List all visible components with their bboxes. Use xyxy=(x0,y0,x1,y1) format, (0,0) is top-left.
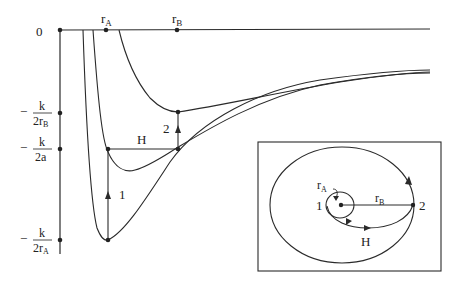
k-2rA-dot xyxy=(58,238,63,243)
zero-label: 0 xyxy=(36,24,43,39)
transition-2-label: 2 xyxy=(163,121,170,136)
rB-dot xyxy=(175,28,180,33)
potential-diagram: 0 rA rB − k 2rB − k 2a − k 2rA 1 H 2 xyxy=(0,0,456,284)
orbit-inset: rA rB 1 2 H xyxy=(258,142,441,271)
svg-text:k: k xyxy=(39,135,45,149)
point-2-dot xyxy=(411,203,415,207)
inset-point-1-label: 1 xyxy=(316,198,323,213)
k-2rB-dot xyxy=(58,111,63,116)
svg-text:2a: 2a xyxy=(35,150,47,164)
svg-text:−: − xyxy=(20,231,27,246)
zero-energy-line xyxy=(60,29,430,30)
rB-label: rB xyxy=(172,11,182,28)
inset-point-2-label: 2 xyxy=(419,198,426,213)
svg-text:−: − xyxy=(20,140,27,155)
potential-curve-B xyxy=(119,30,430,112)
svg-text:2rA: 2rA xyxy=(33,241,49,256)
transition-1-label: 1 xyxy=(119,187,126,202)
svg-text:k: k xyxy=(39,99,45,113)
point-rB-min xyxy=(176,110,181,115)
inset-H-label: H xyxy=(361,234,370,249)
central-body-dot xyxy=(339,203,343,207)
k-2a-dot xyxy=(58,147,63,152)
svg-text:2rB: 2rB xyxy=(33,114,48,129)
origin-dot xyxy=(58,28,63,33)
svg-text:k: k xyxy=(39,226,45,240)
point-2-bottom xyxy=(176,147,181,152)
k-2rB-label: − k 2rB xyxy=(20,99,52,129)
transition-2-arrow-icon xyxy=(175,125,181,133)
point-1-top xyxy=(106,147,111,152)
point-rA-min xyxy=(106,238,111,243)
rA-dot xyxy=(104,28,109,33)
k-2a-label: − k 2a xyxy=(20,135,52,164)
rA-label: rA xyxy=(101,11,112,28)
transfer-H-label: H xyxy=(137,132,146,147)
k-2rA-label: − k 2rA xyxy=(20,226,52,256)
transition-1-arrow-icon xyxy=(105,191,111,199)
svg-text:−: − xyxy=(20,104,27,119)
